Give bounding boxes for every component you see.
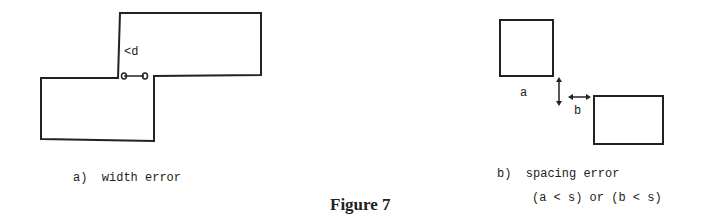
caption-b: b) spacing error xyxy=(497,167,619,181)
box-b xyxy=(594,96,663,144)
label-a: a xyxy=(520,86,527,100)
width-dimension-arrow-icon xyxy=(122,73,148,79)
figure-7-diagram: <d a) width error a b b) spacing error (… xyxy=(0,0,706,224)
spacing-condition: (a < s) or (b < s) xyxy=(532,191,662,205)
dimension-label-d: <d xyxy=(124,45,138,59)
horizontal-spacing-arrow-icon xyxy=(568,94,591,100)
label-b: b xyxy=(574,104,581,118)
vertical-spacing-arrow-icon xyxy=(556,77,562,106)
box-a xyxy=(500,20,553,76)
panel-a: <d a) width error xyxy=(41,13,261,185)
width-error-polygon xyxy=(41,13,261,141)
panel-b: a b b) spacing error (a < s) or (b < s) xyxy=(497,20,663,205)
figure-title: Figure 7 xyxy=(330,195,391,214)
caption-a: a) width error xyxy=(73,171,181,185)
